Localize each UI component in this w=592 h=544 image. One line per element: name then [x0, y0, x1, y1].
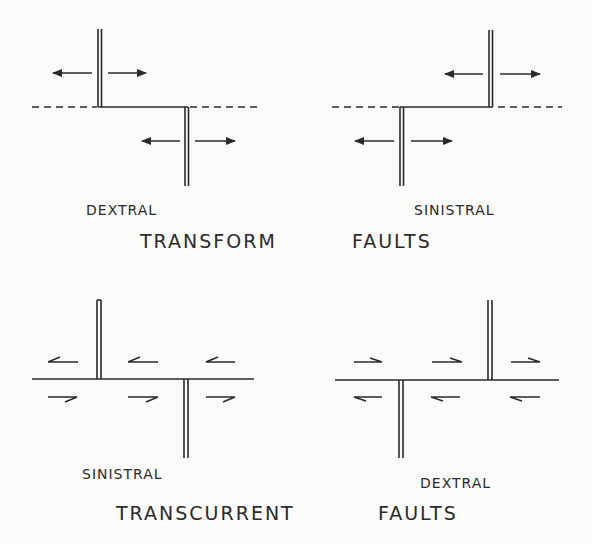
- caption-faults-top: FAULTS: [352, 230, 432, 252]
- panel-sinistral-transcurrent: [32, 300, 254, 458]
- ridge-segment-upper: [98, 29, 102, 107]
- ridge-segment-upper: [488, 300, 492, 380]
- half-arrows-lower-left: [354, 397, 540, 401]
- ridge-segment-lower: [399, 380, 403, 458]
- fault-diagram-graphic: [0, 0, 592, 544]
- label-sinistral-transform: SINISTRAL: [414, 202, 495, 218]
- caption-transcurrent: TRANSCURRENT: [116, 502, 295, 524]
- half-arrows-upper-left: [48, 357, 235, 362]
- fault-diagram: DEXTRAL SINISTRAL TRANSFORM FAULTS SINIS…: [0, 0, 592, 544]
- ridge-segment-lower: [400, 107, 404, 186]
- half-arrows-lower-right: [48, 397, 235, 402]
- ridge-segment-lower: [184, 379, 188, 458]
- ridge-segment-upper: [489, 30, 493, 107]
- label-dextral-transcurrent: DEXTRAL: [420, 475, 491, 491]
- caption-transform: TRANSFORM: [140, 230, 277, 252]
- ridge-segment-lower: [185, 107, 189, 186]
- panel-sinistral-transform: [332, 30, 562, 186]
- panel-dextral-transform: [32, 29, 260, 186]
- panel-dextral-transcurrent: [335, 300, 559, 458]
- half-arrows-upper-right: [354, 358, 540, 362]
- label-dextral-transform: DEXTRAL: [86, 202, 157, 218]
- label-sinistral-transcurrent: SINISTRAL: [82, 466, 163, 482]
- caption-faults-bottom: FAULTS: [378, 502, 458, 524]
- ridge-segment-upper: [97, 300, 101, 379]
